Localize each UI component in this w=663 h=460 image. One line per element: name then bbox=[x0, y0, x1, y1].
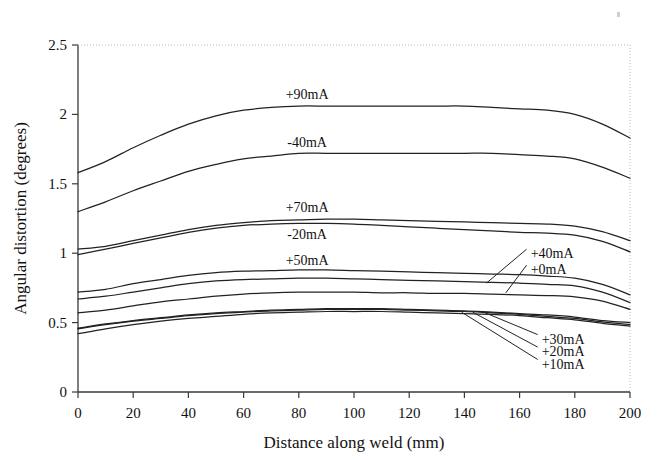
series-label-plus10ma: +10mA bbox=[542, 357, 586, 372]
x-tick-label: 40 bbox=[181, 405, 196, 421]
series-label-minus20ma: -20mA bbox=[287, 227, 328, 242]
scan-artifacts bbox=[617, 12, 620, 17]
y-tick-label: 2 bbox=[60, 106, 68, 122]
x-tick-label: 140 bbox=[453, 405, 476, 421]
series-label-plus0ma: +0mA bbox=[531, 262, 568, 277]
x-tick-label: 180 bbox=[564, 405, 587, 421]
x-tick-label: 60 bbox=[236, 405, 251, 421]
x-tick-label: 160 bbox=[508, 405, 531, 421]
series-label-plus90ma: +90mA bbox=[286, 87, 330, 102]
x-tick-label: 120 bbox=[398, 405, 421, 421]
x-tick-label: 100 bbox=[343, 405, 366, 421]
y-tick-label: 1.5 bbox=[48, 176, 67, 192]
chart-background bbox=[0, 0, 663, 460]
y-tick-label: 0 bbox=[60, 384, 68, 400]
series-label-plus40ma: +40mA bbox=[531, 246, 575, 261]
x-tick-label: 0 bbox=[74, 405, 82, 421]
chart-canvas: +90mA-40mA+70mA-20mA+50mA+40mA+0mA+30mA+… bbox=[0, 0, 663, 460]
y-axis-title: Angular distortion (degrees) bbox=[11, 122, 30, 315]
angular-distortion-chart: +90mA-40mA+70mA-20mA+50mA+40mA+0mA+30mA+… bbox=[0, 0, 663, 460]
series-label-plus50ma: +50mA bbox=[286, 253, 330, 268]
x-axis-title: Distance along weld (mm) bbox=[264, 433, 445, 452]
series-label-minus40ma: -40mA bbox=[287, 135, 328, 150]
y-tick-label: 1 bbox=[60, 245, 68, 261]
scan-speck bbox=[617, 12, 620, 17]
y-tick-label: 2.5 bbox=[48, 37, 67, 53]
x-tick-label: 200 bbox=[619, 405, 642, 421]
x-tick-label: 20 bbox=[126, 405, 141, 421]
y-tick-label: 0.5 bbox=[48, 315, 67, 331]
x-tick-label: 80 bbox=[291, 405, 306, 421]
series-label-plus70ma: +70mA bbox=[286, 200, 330, 215]
